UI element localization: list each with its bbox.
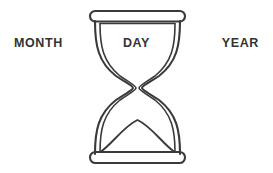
sand-mound-bottom [101,120,174,152]
label-year: YEAR [222,37,259,50]
hourglass-bottom-cap [90,152,185,163]
hourglass-top-cap [90,11,185,22]
hourglass-illustration [0,0,273,173]
diagram-canvas: MONTH DAY YEAR [0,0,273,173]
